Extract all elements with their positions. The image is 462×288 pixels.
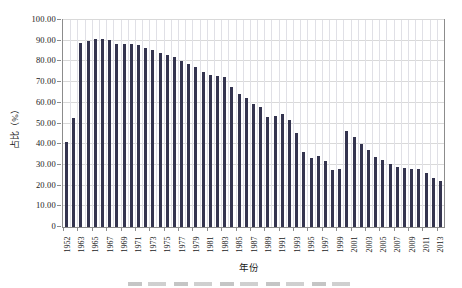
bar <box>101 39 104 227</box>
bar <box>360 144 363 227</box>
v-gridline <box>293 20 294 227</box>
bar <box>166 55 169 227</box>
v-gridline <box>358 20 359 227</box>
v-gridline <box>164 20 165 227</box>
x-tick <box>422 228 423 231</box>
bar <box>259 107 262 227</box>
v-gridline <box>408 20 409 227</box>
v-gridline <box>271 20 272 227</box>
bar <box>130 44 133 227</box>
bar <box>159 53 162 228</box>
bar <box>238 94 241 227</box>
v-gridline <box>99 20 100 227</box>
bar <box>115 44 118 227</box>
y-tick <box>57 81 61 82</box>
plot-area <box>62 19 445 228</box>
bar <box>317 156 320 227</box>
x-tick <box>322 228 323 231</box>
v-gridline <box>315 20 316 227</box>
bar <box>295 133 298 227</box>
y-tick-label: 90.00 <box>14 36 56 45</box>
v-gridline <box>322 20 323 227</box>
v-gridline <box>422 20 423 227</box>
bar <box>72 118 75 227</box>
v-gridline <box>394 20 395 227</box>
y-tick <box>57 143 61 144</box>
bar <box>216 76 219 227</box>
v-gridline <box>171 20 172 227</box>
v-gridline <box>77 20 78 227</box>
x-tick <box>77 228 78 231</box>
y-tick-label: 0 <box>14 222 56 231</box>
x-tick-label: 1967 <box>105 232 114 258</box>
y-tick <box>57 123 61 124</box>
y-tick <box>57 226 61 227</box>
v-gridline <box>351 20 352 227</box>
v-gridline <box>307 20 308 227</box>
x-tick <box>408 228 409 231</box>
v-gridline <box>343 20 344 227</box>
v-gridline <box>228 20 229 227</box>
x-tick <box>307 228 308 231</box>
v-gridline <box>221 20 222 227</box>
x-tick-label: 1995 <box>307 232 316 258</box>
v-gridline <box>379 20 380 227</box>
v-gridline <box>192 20 193 227</box>
bar <box>202 72 205 227</box>
x-tick <box>121 228 122 231</box>
x-tick-label: 1975 <box>163 232 172 258</box>
y-tick-label: 70.00 <box>14 77 56 86</box>
bar <box>144 48 147 227</box>
x-tick <box>149 228 150 231</box>
x-tick <box>264 228 265 231</box>
x-tick <box>92 228 93 231</box>
v-gridline <box>386 20 387 227</box>
x-tick <box>379 228 380 231</box>
x-tick <box>164 228 165 231</box>
bar <box>266 117 269 227</box>
bar <box>389 164 392 227</box>
x-tick <box>236 228 237 231</box>
y-axis-title: 占比（%） <box>8 96 20 158</box>
v-gridline <box>106 20 107 227</box>
x-tick <box>336 228 337 231</box>
x-tick-label: 1991 <box>278 232 287 258</box>
x-tick <box>365 228 366 231</box>
v-gridline <box>250 20 251 227</box>
x-tick <box>437 228 438 231</box>
v-gridline <box>329 20 330 227</box>
bar <box>302 152 305 227</box>
v-gridline <box>437 20 438 227</box>
bar <box>331 170 334 227</box>
x-tick <box>293 228 294 231</box>
v-gridline <box>257 20 258 227</box>
bar <box>79 43 82 227</box>
bar <box>151 50 154 227</box>
bar <box>108 40 111 227</box>
v-gridline <box>178 20 179 227</box>
bar <box>173 57 176 227</box>
bar <box>374 157 377 227</box>
x-tick-label: 1973 <box>148 232 157 258</box>
v-gridline <box>430 20 431 227</box>
y-tick-label: 10.00 <box>14 201 56 210</box>
bar <box>223 77 226 227</box>
v-gridline <box>156 20 157 227</box>
y-tick <box>57 205 61 206</box>
v-gridline <box>372 20 373 227</box>
x-tick <box>279 228 280 231</box>
x-tick <box>207 228 208 231</box>
x-tick-label: 2009 <box>407 232 416 258</box>
bar <box>87 41 90 227</box>
x-tick-label: 1977 <box>177 232 186 258</box>
x-tick-label: 2011 <box>422 232 431 258</box>
v-gridline <box>149 20 150 227</box>
bar <box>180 61 183 227</box>
y-tick-label: 40.00 <box>14 139 56 148</box>
x-tick-label: 1999 <box>335 232 344 258</box>
bar <box>425 173 428 227</box>
bar <box>288 120 291 227</box>
x-tick <box>178 228 179 231</box>
bar <box>432 178 435 227</box>
bar <box>274 116 277 227</box>
